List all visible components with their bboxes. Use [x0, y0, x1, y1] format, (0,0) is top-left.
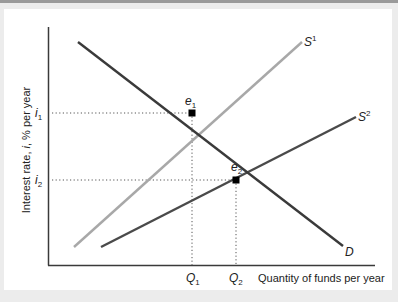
q1-tick-label: Q1	[186, 271, 200, 287]
s1-label: S1	[304, 34, 317, 49]
loanable-funds-diagram: S1 S2 D e1 e2 i1 i2 Q1 Q2 Quantity of fu…	[0, 0, 398, 302]
equilibrium-point-e2	[233, 177, 240, 184]
q2-tick-label: Q2	[229, 271, 243, 287]
supply-curve-s1	[74, 42, 302, 247]
e1-label: e1	[185, 94, 197, 110]
equilibrium-point-e1	[189, 110, 196, 117]
e2-label: e2	[231, 160, 243, 176]
s2-label: S2	[358, 109, 371, 124]
demand-label: D	[345, 245, 354, 259]
i1-tick-label: i1	[35, 106, 43, 122]
y-axis-title: Interest rate, i, % per year	[20, 86, 32, 213]
i2-tick-label: i2	[35, 173, 43, 189]
x-axis-title: Quantity of funds per year	[258, 272, 385, 284]
